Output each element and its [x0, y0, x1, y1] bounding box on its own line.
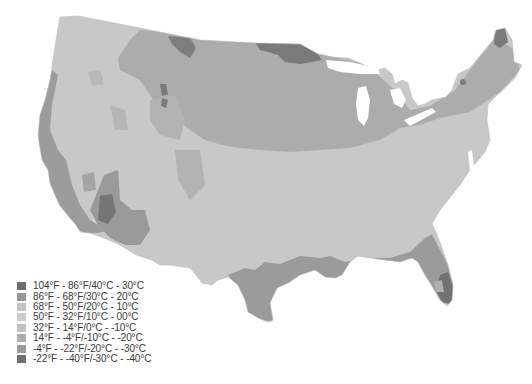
legend-item: -22°F - -40°F/-30°C - -40°C — [17, 354, 151, 364]
legend-label: 50°F - 32°F/10°C - 00°C — [33, 312, 138, 322]
legend-swatch — [17, 282, 26, 290]
legend: 104°F - 86°F/40°C - 30°C 86°F - 68°F/30°… — [17, 281, 151, 364]
legend-label: -22°F - -40°F/-30°C - -40°C — [33, 354, 151, 364]
legend-swatch — [17, 334, 26, 342]
legend-swatch — [17, 313, 26, 321]
legend-swatch — [17, 355, 26, 363]
zone-cold-spot — [460, 79, 466, 85]
zone-inland-patch — [82, 172, 96, 192]
legend-swatch — [17, 345, 26, 353]
legend-item: 104°F - 86°F/40°C - 30°C — [17, 281, 151, 291]
legend-item: 50°F - 32°F/10°C - 00°C — [17, 312, 151, 322]
legend-item: 14°F - -4°F/-10°C - -20°C — [17, 333, 151, 343]
legend-swatch — [17, 324, 26, 332]
legend-swatch — [17, 293, 26, 301]
legend-label: 14°F - -4°F/-10°C - -20°C — [33, 333, 143, 343]
legend-label: 104°F - 86°F/40°C - 30°C — [33, 281, 144, 291]
legend-swatch — [17, 303, 26, 311]
